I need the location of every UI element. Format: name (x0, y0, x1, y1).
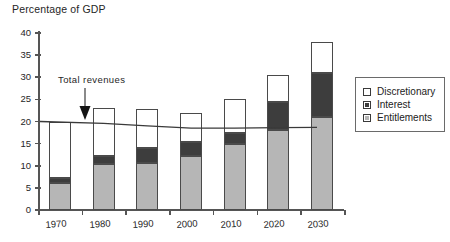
chart-container: Percentage of GDP 0510152025303540 19701… (0, 0, 450, 242)
legend-item-discretionary[interactable]: Discretionary (363, 86, 435, 97)
legend-item-label: Discretionary (377, 86, 435, 97)
legend-swatch-icon (363, 114, 371, 122)
legend-swatch-icon (363, 88, 371, 96)
legend-item-interest[interactable]: Interest (363, 99, 435, 110)
legend-item-label: Entitlements (377, 112, 432, 123)
legend-item-entitlements[interactable]: Entitlements (363, 112, 435, 123)
legend-swatch-icon (363, 101, 371, 109)
legend-item-label: Interest (377, 99, 410, 110)
chart-legend: DiscretionaryInterestEntitlements (355, 77, 445, 132)
